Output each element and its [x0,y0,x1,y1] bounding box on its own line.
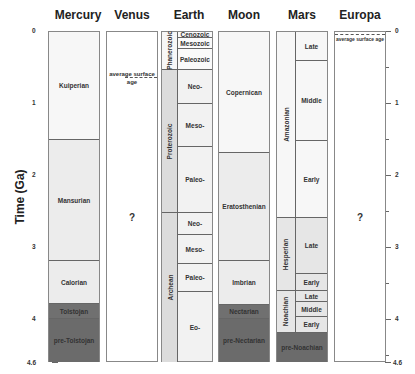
period-label: Hesperian [283,238,290,269]
title-mars: Mars [276,8,328,22]
tick-label: 2 [32,171,36,178]
era-paleoarchean: Paleo- [178,264,212,292]
tick-label: 4.6 [27,359,36,366]
venus-note: average surface age [107,70,157,86]
epoch-middle-amazonian: Middle [296,61,327,141]
unit-mansurian: Mansurian [49,140,99,261]
column-europa: average surface age ? [334,31,386,362]
era-mesoproterozoic: Meso- [178,104,212,147]
eon-proterozoic: Proterozoic [162,70,178,213]
title-venus: Venus [106,8,158,22]
eon-archean: Archean [162,213,178,362]
venus-surface-age-line [125,77,157,78]
period-label: Noachian [283,297,290,326]
epoch-early-hesperian: Early [296,274,327,291]
tick-label: 3 [32,243,36,250]
unit-kuiperian: Kuiperian [49,32,99,140]
epoch-early-noachian: Early [296,317,327,333]
europa-unknown: ? [357,212,363,223]
period-label: Amazonian [283,107,290,142]
tick [385,362,391,363]
era-neoproterozoic: Neo- [178,70,212,104]
eon-label: Proterozoic [166,123,173,159]
epoch-late-noachian: Late [296,291,327,302]
tick-label: 0 [395,27,399,34]
title-mercury: Mercury [48,8,108,22]
era-eoarchean: Eo- [178,292,212,362]
unit-copernican: Copernican [219,32,269,153]
era-neoarchean: Neo- [178,213,212,235]
column-mars: Amazonian Hesperian Noachian Late Middle… [276,31,328,362]
y-axis-label: Time (Ga) [13,169,27,224]
tick-label: 3 [395,243,399,250]
epoch-early-amazonian: Early [296,141,327,218]
tick [52,362,58,363]
eon-phanerozoic: Phanerozoic [162,32,178,70]
eon-label: Archean [166,274,173,300]
epoch-late-hesperian: Late [296,218,327,274]
unit-eratosthenian: Eratosthenian [219,153,269,261]
period-hesperian: Hesperian [277,218,296,291]
era-mesoarchean: Meso- [178,235,212,264]
unit-calorian: Calorian [49,261,99,304]
title-moon: Moon [218,8,270,22]
column-mercury: Kuiperian Mansurian Calorian Tolstojan p… [48,31,100,362]
period-noachian: Noachian [277,291,296,333]
title-europa: Europa [334,8,386,22]
era-paleozoic: Paleozoic [178,49,212,70]
unit-tolstojan: Tolstojan [49,304,99,319]
epoch-middle-noachian: Middle [296,302,327,317]
tick-label: 1 [395,99,399,106]
eon-label: Phanerozoic [166,31,173,70]
tick-label: 2 [395,171,399,178]
title-earth: Earth [161,8,217,22]
venus-unknown: ? [129,212,135,223]
tick-label: 4 [395,315,399,322]
tick-label: 4.6 [393,359,402,366]
unit-nectarian: Nectarian [219,305,269,319]
column-venus: average surface age ? [106,31,158,362]
epoch-late-amazonian: Late [296,32,327,61]
europa-note: average surface age [335,35,385,43]
period-amazonian: Amazonian [277,32,296,218]
unit-pre-tolstojan: pre-Tolstojan [49,319,99,362]
column-moon: Copernican Eratosthenian Imbrian Nectari… [218,31,270,362]
era-paleoproterozoic: Paleo- [178,147,212,213]
unit-pre-nectarian: pre-Nectarian [219,319,269,362]
tick-label: 4 [32,315,36,322]
column-earth: Phanerozoic Proterozoic Archean Cenozoic… [161,31,213,362]
tick-label: 0 [32,27,36,34]
tick-label: 1 [32,99,36,106]
unit-pre-noachian: pre-Noachian [277,333,327,362]
unit-imbrian: Imbrian [219,261,269,305]
era-mesozoic: Mesozoic [178,38,212,49]
